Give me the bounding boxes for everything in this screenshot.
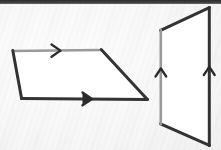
left-parallelogram-top-edge bbox=[13, 50, 101, 51]
right-parallelogram bbox=[156, 8, 215, 146]
left-parallelogram bbox=[13, 45, 148, 106]
left-parallelogram-fill bbox=[13, 50, 147, 99]
geometry-diagram bbox=[0, 0, 221, 150]
right-parallelogram-fill bbox=[161, 8, 209, 145]
figure-canvas bbox=[0, 0, 221, 150]
